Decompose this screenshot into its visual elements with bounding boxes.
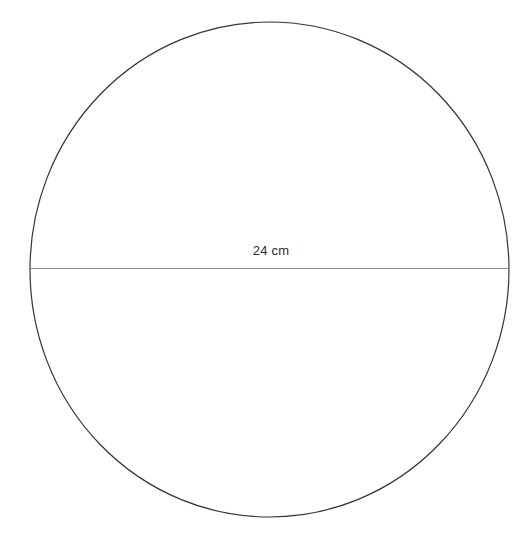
- diameter-length-label: 24 cm: [0, 243, 524, 259]
- circle-outline: [30, 22, 509, 517]
- circle-diagram-svg: [0, 0, 524, 544]
- geometry-figure-canvas: 24 cm: [0, 0, 524, 544]
